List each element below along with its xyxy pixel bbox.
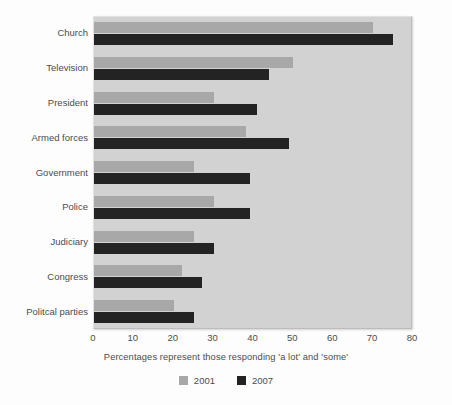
bar-group <box>94 226 411 261</box>
legend-swatch-2001 <box>179 376 188 385</box>
bar-2001-president <box>94 92 214 103</box>
bar-group <box>94 17 411 52</box>
bar-2001-politcal-parties <box>94 300 174 311</box>
x-axis-ticks: 01020304050607080 <box>93 329 412 347</box>
category-label-president: President <box>0 97 88 108</box>
bar-group <box>94 260 411 295</box>
category-label-police: Police <box>0 201 88 212</box>
bar-2001-police <box>94 196 214 207</box>
category-label-government: Government <box>0 167 88 178</box>
bar-group <box>94 295 411 329</box>
bar-2007-politcal-parties <box>94 312 194 323</box>
bar-2007-government <box>94 173 250 184</box>
bars-container <box>94 17 411 328</box>
bar-group <box>94 156 411 191</box>
bar-2001-congress <box>94 265 182 276</box>
category-axis-labels: ChurchTelevisionPresidentArmed forcesGov… <box>0 16 88 329</box>
bar-group <box>94 52 411 87</box>
x-tick-30: 30 <box>207 332 218 343</box>
bar-2001-judiciary <box>94 231 194 242</box>
bar-group <box>94 87 411 122</box>
x-tick-50: 50 <box>287 332 298 343</box>
bar-2001-television <box>94 57 293 68</box>
bar-2007-judiciary <box>94 243 214 254</box>
x-tick-20: 20 <box>167 332 178 343</box>
bar-2007-police <box>94 208 250 219</box>
x-axis-caption: Percentages represent those responding '… <box>0 352 452 362</box>
bar-2007-congress <box>94 277 202 288</box>
legend-item-2001[interactable]: 2001 <box>179 375 215 386</box>
x-tick-0: 0 <box>90 332 95 343</box>
plot-area <box>93 16 412 329</box>
chart-figure: ChurchTelevisionPresidentArmed forcesGov… <box>0 0 452 405</box>
bar-group <box>94 191 411 226</box>
bar-2007-television <box>94 69 269 80</box>
bar-2007-armed-forces <box>94 138 289 149</box>
category-label-armed-forces: Armed forces <box>0 132 88 143</box>
x-tick-40: 40 <box>247 332 258 343</box>
legend-label-2007: 2007 <box>252 375 273 386</box>
bar-group <box>94 121 411 156</box>
x-tick-70: 70 <box>367 332 378 343</box>
category-label-church: Church <box>0 27 88 38</box>
legend-label-2001: 2001 <box>194 375 215 386</box>
bar-2007-church <box>94 34 393 45</box>
legend-item-2007[interactable]: 2007 <box>237 375 273 386</box>
bar-2001-government <box>94 161 194 172</box>
x-tick-60: 60 <box>327 332 338 343</box>
legend-swatch-2007 <box>237 376 246 385</box>
x-tick-80: 80 <box>407 332 418 343</box>
category-label-television: Television <box>0 62 88 73</box>
category-label-judiciary: Judiciary <box>0 236 88 247</box>
category-label-politcal-parties: Politcal parties <box>0 306 88 317</box>
bar-2001-armed-forces <box>94 126 246 137</box>
x-tick-10: 10 <box>128 332 139 343</box>
bar-2001-church <box>94 22 373 33</box>
category-label-congress: Congress <box>0 271 88 282</box>
bar-2007-president <box>94 104 257 115</box>
chart-legend: 20012007 <box>0 375 452 386</box>
